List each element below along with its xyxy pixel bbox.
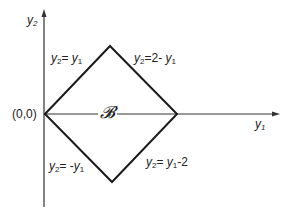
edge-label-upper-right: y2=2- y1 — [134, 52, 176, 66]
edge-label-lower-left: y2= -y1 — [49, 160, 84, 174]
diagram-canvas — [0, 0, 292, 215]
y2-axis-arrow-icon — [42, 9, 47, 17]
region-label: 𝓑 — [98, 104, 117, 121]
edge-label-upper-left: y2= y1 — [51, 52, 82, 66]
origin-label: (0,0) — [12, 108, 37, 120]
edge-label-lower-right: y2= y1-2 — [146, 156, 188, 170]
y1-axis-arrow-icon — [272, 112, 280, 117]
y2-axis-label: y2 — [27, 14, 37, 28]
y1-axis-label: y1 — [255, 118, 265, 132]
